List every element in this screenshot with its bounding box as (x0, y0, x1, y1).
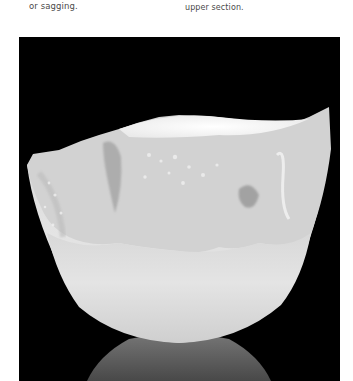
caption-right-text: upper section. (185, 2, 244, 13)
bowl-illustration (19, 37, 340, 381)
bowl-photograph (19, 37, 340, 381)
caption-left-text: or sagging. (29, 1, 78, 12)
